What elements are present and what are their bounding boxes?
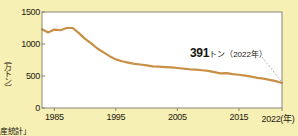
annotation-year: （2022年） — [225, 50, 267, 59]
x-tick-label: 2022(年) — [262, 112, 295, 125]
chart-container: （万トン） 0 500 1000 1500 198519952005201520… — [0, 0, 298, 136]
annotation-value: 391 — [190, 46, 209, 60]
x-tick-label: 1985 — [45, 112, 64, 122]
x-tick-label: 2005 — [168, 112, 187, 122]
x-tick-label: 1995 — [106, 112, 125, 122]
source-note: 産統計」 — [0, 125, 30, 136]
annotation-391-tons: 391トン（2022年） — [190, 43, 267, 61]
x-tick-label: 2015 — [230, 112, 249, 122]
annotation-unit: トン — [209, 50, 225, 59]
